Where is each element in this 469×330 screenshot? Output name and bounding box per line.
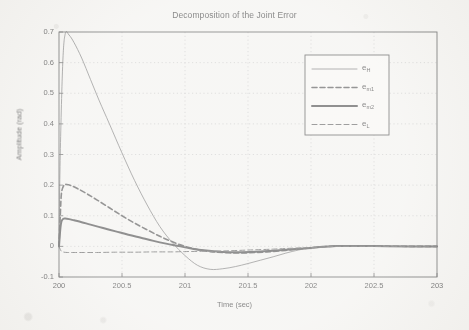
x-tick-label: 203	[417, 281, 457, 290]
legend-label-subscript: H	[366, 67, 370, 73]
x-tick-label: 200.5	[102, 281, 142, 290]
y-tick-label: 0.4	[28, 119, 54, 128]
chart-figure: Decomposition of the Joint Error Amplitu…	[0, 0, 469, 330]
x-tick-label: 202.5	[354, 281, 394, 290]
y-tick-label: 0.3	[28, 150, 54, 159]
y-tick-label: 0.7	[28, 27, 54, 36]
y-tick-label: 0.5	[28, 88, 54, 97]
y-tick-label: -0.1	[28, 272, 54, 281]
legend-label-subscript: m2	[366, 104, 374, 110]
x-tick-label: 200	[39, 281, 79, 290]
x-tick-label: 201	[165, 281, 205, 290]
legend-entry-e-H: eH	[362, 63, 370, 72]
y-tick-label: 0.1	[28, 211, 54, 220]
legend-label-subscript: m1	[366, 86, 374, 92]
legend-label-subscript: L	[366, 123, 369, 129]
y-tick-label: 0.2	[28, 180, 54, 189]
x-tick-label: 201.5	[228, 281, 268, 290]
y-tick-label: 0	[28, 241, 54, 250]
x-tick-label: 202	[291, 281, 331, 290]
series-line-e-m2	[59, 218, 437, 252]
legend-box	[305, 55, 389, 135]
legend-entry-e-m2: em2	[362, 100, 374, 109]
y-tick-label: 0.6	[28, 58, 54, 67]
legend-entry-e-m1: em1	[362, 82, 374, 91]
legend-entry-e-L: eL	[362, 119, 370, 128]
